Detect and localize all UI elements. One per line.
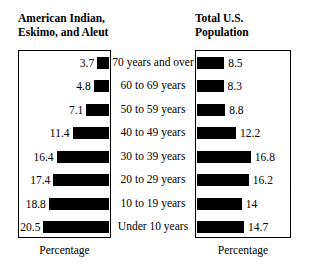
bar-value-label: 16.8 [255,151,275,163]
table-row: 16.8 [196,145,290,169]
category-row: Under 10 years [111,215,195,239]
left-panel-title: American Indian, Eskimo, and Aleut [18,11,108,39]
bar-value-label: 14 [246,198,258,210]
bar [49,198,109,210]
table-row: 8.3 [196,75,290,99]
bar-value-label: 18.8 [26,198,46,210]
table-row: 8.5 [196,51,290,75]
bar-value-label: 12.2 [240,127,260,139]
bar-value-label: 20.5 [20,221,40,233]
bar-value-label: 8.5 [228,57,242,69]
category-row: 60 to 69 years [111,74,195,98]
bar-value-label: 4.8 [76,80,90,92]
left-chart-plot-area: 3.74.87.111.416.417.418.820.5 [18,50,111,238]
category-label: 40 to 49 years [121,126,186,138]
category-row: 20 to 29 years [111,168,195,192]
category-label: 50 to 59 years [121,103,186,115]
right-panel-title: Total U.S. Population [195,11,249,39]
right-axis-caption: Percentage [195,244,291,257]
table-row: 14 [196,192,290,216]
bar-value-label: 8.8 [229,104,243,116]
bar-value-label: 7.1 [69,104,83,116]
category-label: 70 years and over [112,56,193,68]
bar [97,57,109,69]
bar-value-label: 16.2 [253,174,273,186]
category-label: 60 to 69 years [121,79,186,91]
bar [53,174,109,186]
right-chart-plot-area: 8.58.38.812.216.816.21414.7 [195,50,291,238]
left-bar-rows: 3.74.87.111.416.417.418.820.5 [19,51,110,237]
bar [43,221,109,233]
bar [197,57,224,69]
category-label-column: 70 years and over60 to 69 years50 to 59 … [111,50,195,238]
table-row: 17.4 [19,169,110,193]
table-row: 14.7 [196,216,290,240]
bar-value-label: 16.4 [33,151,53,163]
bar [73,127,109,139]
bar [197,174,249,186]
bar [197,221,244,233]
table-row: 16.2 [196,169,290,193]
category-row: 40 to 49 years [111,121,195,145]
table-row: 16.4 [19,145,110,169]
bar [57,151,109,163]
bar [197,198,242,210]
table-row: 3.7 [19,51,110,75]
table-row: 7.1 [19,98,110,122]
bar [94,80,109,92]
category-label: 20 to 29 years [121,173,186,185]
category-label: 30 to 39 years [121,150,186,162]
category-row: 70 years and over [111,50,195,74]
table-row: 11.4 [19,122,110,146]
bar-value-label: 8.3 [228,80,242,92]
bar-value-label: 17.4 [30,174,50,186]
table-row: 18.8 [19,192,110,216]
right-bar-rows: 8.58.38.812.216.816.21414.7 [196,51,290,237]
bar [197,80,224,92]
table-row: 8.8 [196,98,290,122]
bar-value-label: 11.4 [50,127,70,139]
bar [86,104,109,116]
category-row: 10 to 19 years [111,191,195,215]
bar [197,127,236,139]
bar-value-label: 3.7 [80,57,94,69]
category-row: 50 to 59 years [111,97,195,121]
left-axis-caption: Percentage [18,244,111,257]
bar [197,104,225,116]
paired-bar-chart-figure: American Indian, Eskimo, and Aleut Total… [0,0,316,278]
category-label: 10 to 19 years [121,197,186,209]
category-label: Under 10 years [118,220,188,232]
bar [197,151,251,163]
table-row: 4.8 [19,75,110,99]
bar-value-label: 14.7 [248,221,268,233]
table-row: 12.2 [196,122,290,146]
table-row: 20.5 [19,216,110,240]
category-row: 30 to 39 years [111,144,195,168]
